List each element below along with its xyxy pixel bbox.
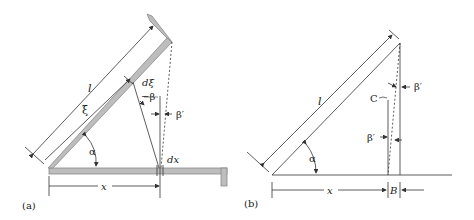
label-l: l — [88, 82, 92, 95]
inclined-line — [272, 43, 400, 175]
label-d-xi: dξ — [142, 77, 154, 88]
label-l-b: l — [318, 95, 322, 108]
label-xi: ξ — [82, 104, 88, 117]
label-alpha-b: α — [309, 153, 316, 164]
c-leader — [379, 97, 387, 98]
panel-b: l β′ C β′ α x B (b) — [244, 30, 452, 209]
label-beta-prime: β′ — [176, 109, 185, 120]
label-beta-prime-mid: β′ — [367, 132, 376, 143]
label-dx: dx — [167, 154, 179, 165]
dim-ext-l-b-bottom — [247, 152, 269, 172]
figure: l ξ dξ −β β′ α dx x (a) — [0, 0, 474, 220]
label-beta-prime-top: β′ — [414, 81, 423, 92]
caption-a: (a) — [22, 200, 36, 211]
dim-line-l — [33, 26, 153, 154]
label-x-b: x — [327, 185, 333, 196]
dashed-line — [161, 42, 172, 168]
beta-prime-top-arrow-left — [388, 83, 396, 87]
label-neg-beta: −β — [141, 91, 155, 102]
plate-lip — [221, 168, 227, 186]
label-x: x — [101, 181, 107, 192]
panel-a: l ξ dξ −β β′ α dx x (a) — [22, 14, 227, 211]
label-c: C — [370, 93, 378, 104]
horizontal-plate — [49, 168, 227, 174]
label-alpha: α — [89, 146, 96, 157]
dim-ext-l-b-top — [389, 30, 399, 39]
diagram-svg: l ξ dξ −β β′ α dx x (a) — [0, 0, 474, 220]
caption-b: (b) — [244, 198, 258, 209]
dim-ext-l-bottom — [25, 147, 44, 164]
dashed-line-b — [388, 43, 400, 175]
label-b: B — [389, 185, 397, 196]
